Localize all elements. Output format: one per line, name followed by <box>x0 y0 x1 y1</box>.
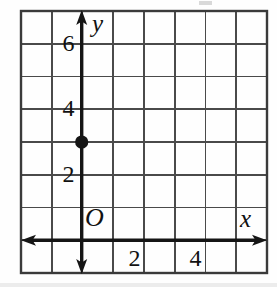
graph-canvas <box>0 0 277 287</box>
x-tick-label-4: 4 <box>186 246 205 270</box>
grid-lines <box>21 11 267 273</box>
y-tick-label-4: 4 <box>59 96 78 120</box>
y-tick-label-2: 2 <box>59 162 78 186</box>
y-tick-label-6: 6 <box>59 31 78 55</box>
x-axis-label: x <box>240 206 251 231</box>
x-tick-label-2: 2 <box>125 246 144 270</box>
plotted-point <box>75 135 88 148</box>
coordinate-plane-figure: y x O 6 4 2 2 4 <box>0 0 277 287</box>
origin-label: O <box>85 205 104 231</box>
y-axis-label: y <box>92 11 103 36</box>
